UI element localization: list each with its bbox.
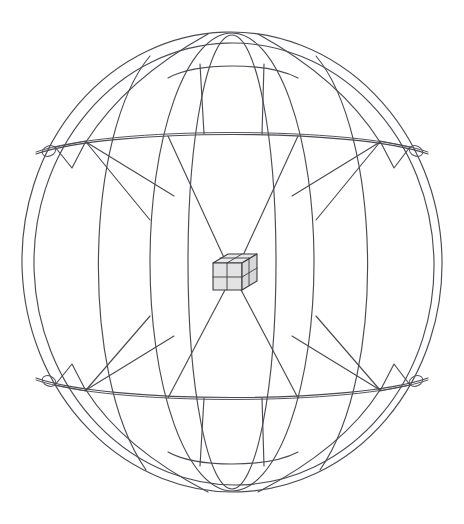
armillary-sphere-drawing: Armillary sphere wireframe with central … <box>0 0 464 524</box>
central-cube <box>213 254 257 290</box>
cube-front-face <box>213 263 242 290</box>
figure-canvas: Armillary sphere wireframe with central … <box>0 0 464 524</box>
